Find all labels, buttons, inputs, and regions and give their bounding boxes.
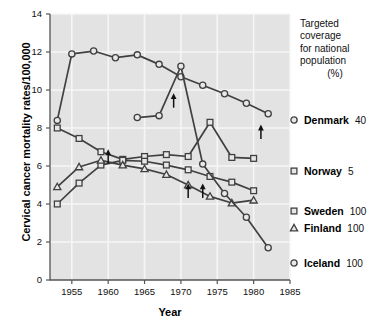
data-point-marker bbox=[221, 91, 227, 97]
data-point-marker bbox=[200, 82, 206, 88]
legend-entry-sweden: Sweden100 bbox=[288, 205, 366, 217]
legend-coverage-value: 40 bbox=[355, 115, 366, 126]
legend-marker-circle-icon bbox=[288, 257, 300, 269]
legend-entry-iceland: Iceland100 bbox=[288, 257, 363, 269]
y-tick-label-2: 2 bbox=[12, 236, 42, 247]
legend-units: (%) bbox=[300, 68, 386, 80]
data-point-marker bbox=[221, 190, 227, 196]
data-point-marker bbox=[265, 245, 271, 251]
data-point-marker bbox=[76, 180, 82, 186]
data-point-marker bbox=[163, 152, 169, 158]
annotation-arrow-up-icon bbox=[171, 93, 177, 108]
data-point-marker bbox=[134, 52, 140, 58]
legend-country-name: Denmark bbox=[304, 114, 349, 126]
chart-figure: Cervical cancer mortality rates/100,000 … bbox=[0, 0, 389, 327]
data-point-marker bbox=[54, 201, 60, 207]
legend-marker-triangle-icon bbox=[288, 222, 300, 234]
legend-title-line-4: population bbox=[300, 55, 346, 66]
data-point-marker bbox=[156, 61, 162, 67]
data-point-marker bbox=[229, 155, 235, 161]
data-point-marker bbox=[229, 179, 235, 185]
legend-country-name: Finland bbox=[304, 222, 341, 234]
legend-coverage-value: 100 bbox=[346, 258, 363, 269]
series-norway bbox=[54, 119, 256, 162]
legend-country-name: Sweden bbox=[304, 205, 344, 217]
data-point-marker bbox=[251, 188, 257, 194]
data-point-marker bbox=[112, 55, 118, 61]
x-tick-label-1970: 1970 bbox=[161, 286, 201, 297]
legend-entry-denmark: Denmark40 bbox=[288, 114, 366, 126]
x-axis-title: Year bbox=[50, 306, 290, 318]
legend-title-line-1: Targeted bbox=[300, 18, 339, 29]
data-point-marker bbox=[75, 163, 82, 169]
y-tick-label-10: 10 bbox=[12, 84, 42, 95]
data-point-marker bbox=[185, 154, 191, 160]
y-tick-label-14: 14 bbox=[12, 8, 42, 19]
data-point-marker bbox=[185, 167, 191, 173]
legend-marker-square-icon bbox=[288, 205, 300, 217]
data-point-marker bbox=[97, 157, 104, 163]
x-tick-label-1955: 1955 bbox=[52, 286, 92, 297]
x-tick-label-1965: 1965 bbox=[125, 286, 165, 297]
y-tick-label-6: 6 bbox=[12, 160, 42, 171]
legend-title-line-2: coverage bbox=[300, 30, 341, 41]
data-point-marker bbox=[265, 111, 271, 117]
y-tick-label-0: 0 bbox=[12, 274, 42, 285]
data-point-marker bbox=[178, 63, 184, 69]
series-line bbox=[57, 160, 253, 204]
x-tick-label-1985: 1985 bbox=[270, 286, 310, 297]
legend-marker-circle-icon bbox=[288, 114, 300, 126]
data-point-marker bbox=[291, 117, 297, 123]
data-point-marker bbox=[250, 197, 257, 203]
series-line bbox=[57, 51, 268, 120]
x-tick-label-1960: 1960 bbox=[88, 286, 128, 297]
data-point-marker bbox=[54, 117, 60, 123]
data-point-marker bbox=[91, 48, 97, 54]
y-tick-label-12: 12 bbox=[12, 46, 42, 57]
series-denmark bbox=[54, 48, 271, 124]
data-point-marker bbox=[243, 100, 249, 106]
annotation-arrow-up-icon bbox=[258, 125, 264, 140]
data-point-marker bbox=[163, 162, 169, 168]
legend-title: Targeted coverage for national populatio… bbox=[300, 18, 386, 80]
legend-coverage-value: 100 bbox=[347, 223, 364, 234]
data-point-marker bbox=[251, 156, 257, 162]
legend-coverage-value: 100 bbox=[350, 206, 367, 217]
data-point-marker bbox=[207, 119, 213, 125]
x-tick-label-1980: 1980 bbox=[234, 286, 274, 297]
legend-title-line-3: for national bbox=[300, 43, 349, 54]
data-point-marker bbox=[291, 168, 297, 174]
data-point-marker bbox=[142, 158, 148, 164]
legend-entry-norway: Norway5 bbox=[288, 165, 354, 177]
data-point-marker bbox=[200, 161, 206, 167]
data-point-marker bbox=[290, 224, 297, 230]
legend-country-name: Norway bbox=[304, 165, 342, 177]
data-point-marker bbox=[69, 51, 75, 57]
legend-marker-square-icon bbox=[288, 165, 300, 177]
legend-coverage-value: 5 bbox=[348, 166, 354, 177]
data-point-marker bbox=[163, 171, 170, 177]
data-point-marker bbox=[54, 125, 60, 131]
series-line bbox=[137, 66, 268, 247]
legend-entry-finland: Finland100 bbox=[288, 222, 364, 234]
data-point-marker bbox=[291, 208, 297, 214]
data-point-marker bbox=[243, 214, 249, 220]
data-point-marker bbox=[76, 136, 82, 142]
legend-country-name: Iceland bbox=[304, 257, 340, 269]
data-point-marker bbox=[291, 260, 297, 266]
data-point-marker bbox=[156, 113, 162, 119]
data-point-marker bbox=[98, 149, 104, 155]
x-tick-label-1975: 1975 bbox=[197, 286, 237, 297]
y-tick-label-4: 4 bbox=[12, 198, 42, 209]
data-point-marker bbox=[206, 193, 213, 199]
data-point-marker bbox=[134, 114, 140, 120]
y-tick-label-8: 8 bbox=[12, 122, 42, 133]
